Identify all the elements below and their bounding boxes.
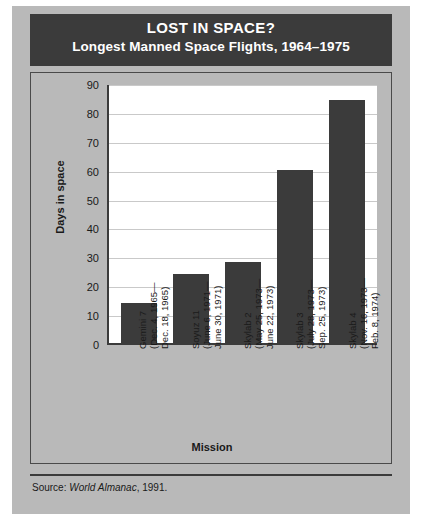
x-axis-labels: Gemini 7(Dec. 4, 1965—Dec. 18, 1965)Soyu…	[107, 347, 377, 439]
y-axis-tick-label: 40	[87, 223, 99, 235]
mission-end-date: June 30, 1971)	[212, 281, 223, 349]
y-axis-ticks: 9080706050403020100	[61, 85, 103, 345]
source-prefix: Source:	[32, 482, 69, 493]
mission-name: Skylab 3	[294, 280, 305, 349]
x-axis-label-text: Skylab 4(Nov. 16, 1973—Feb. 8, 1974)	[347, 278, 380, 349]
mission-start-date: (June 6, 1971—	[201, 281, 212, 349]
mission-start-date: (July 28, 1973—	[305, 280, 316, 349]
y-axis-tick-label: 60	[87, 166, 99, 178]
chart-subtitle: Longest Manned Space Flights, 1964–1975	[30, 38, 392, 56]
x-axis-label: Skylab 2(May 25, 1973—June 22, 1973)	[224, 347, 260, 439]
mission-name: Skylab 4	[347, 278, 358, 349]
mission-end-date: June 22, 1973)	[264, 279, 275, 349]
source-suffix: , 1991.	[137, 482, 168, 493]
chart-frame: 9080706050403020100 Days in space Gemini…	[30, 72, 392, 464]
y-axis-tick-label: 50	[87, 195, 99, 207]
y-axis-tick-label: 0	[93, 339, 99, 351]
mission-start-date: (May 25, 1973—	[253, 279, 264, 349]
x-axis-label-text: Skylab 2(May 25, 1973—June 22, 1973)	[242, 279, 275, 349]
y-axis-tick-label: 30	[87, 252, 99, 264]
chart-title: LOST IN SPACE?	[30, 18, 392, 38]
y-axis-tick-label: 20	[87, 281, 99, 293]
source-divider	[30, 474, 392, 476]
source-note: Source: World Almanac, 1991.	[32, 482, 167, 493]
y-axis-tick-label: 70	[87, 137, 99, 149]
mission-end-date: Feb. 8, 1974)	[369, 278, 380, 349]
y-axis-tick-label: 10	[87, 310, 99, 322]
mission-start-date: (Dec. 4, 1965—	[148, 282, 159, 349]
y-axis-tick-label: 80	[87, 108, 99, 120]
y-axis-title: Days in space	[54, 152, 66, 242]
x-axis-label: Soyuz 11(June 6, 1971—June 30, 1971)	[172, 347, 208, 439]
mission-name: Gemini 7	[137, 282, 148, 349]
chart-page: LOST IN SPACE? Longest Manned Space Flig…	[0, 0, 422, 521]
mission-start-date: (Nov. 16, 1973—	[358, 278, 369, 349]
x-axis-label-text: Skylab 3(July 28, 1973—Sep. 25, 1973)	[294, 280, 327, 349]
mission-name: Skylab 2	[242, 279, 253, 349]
x-axis-label: Gemini 7(Dec. 4, 1965—Dec. 18, 1965)	[119, 347, 155, 439]
chart-card: LOST IN SPACE? Longest Manned Space Flig…	[12, 6, 410, 514]
mission-end-date: Dec. 18, 1965)	[159, 282, 170, 349]
y-axis-tick-label: 90	[87, 79, 99, 91]
source-publication: World Almanac	[69, 482, 136, 493]
chart-header: LOST IN SPACE? Longest Manned Space Flig…	[30, 14, 392, 66]
x-axis-label: Skylab 4(Nov. 16, 1973—Feb. 8, 1974)	[329, 347, 365, 439]
mission-end-date: Sep. 25, 1973)	[316, 280, 327, 349]
mission-name: Soyuz 11	[190, 281, 201, 349]
x-axis-label-text: Gemini 7(Dec. 4, 1965—Dec. 18, 1965)	[137, 282, 170, 349]
x-axis-label-text: Soyuz 11(June 6, 1971—June 30, 1971)	[190, 281, 223, 349]
x-axis-label: Skylab 3(July 28, 1973—Sep. 25, 1973)	[276, 347, 312, 439]
x-axis-title: Mission	[31, 441, 393, 453]
